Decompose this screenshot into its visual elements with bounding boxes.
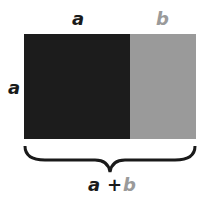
label-sum-b: b — [123, 176, 136, 194]
label-sum-plus: + — [107, 176, 122, 194]
label-sum-a: a — [88, 176, 100, 194]
brace-icon — [0, 0, 208, 203]
